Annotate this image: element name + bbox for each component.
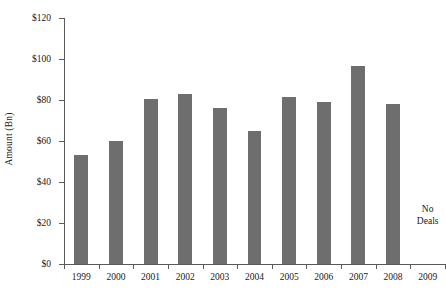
bar (351, 66, 365, 264)
bar (74, 155, 88, 264)
x-axis-tick (341, 264, 342, 269)
y-axis-line (64, 18, 65, 265)
y-axis-tick: $100 (59, 59, 64, 60)
x-axis-tick-label: 1999 (72, 272, 91, 282)
y-axis-tick-label: $40 (37, 177, 51, 187)
y-axis-tick-label: $100 (32, 54, 51, 64)
x-axis-tick (133, 264, 134, 269)
y-axis-tick-label: $60 (37, 136, 51, 146)
y-axis-title: Amount (Bn) (0, 0, 18, 293)
bar (144, 99, 158, 264)
x-axis-tick (376, 264, 377, 269)
x-axis-tick (272, 264, 273, 269)
x-axis-tick (306, 264, 307, 269)
y-axis-title-label: Amount (Bn) (4, 84, 14, 194)
x-axis-tick-label: 2001 (141, 272, 160, 282)
x-axis-line (64, 264, 445, 265)
x-axis-tick-label: 2006 (314, 272, 333, 282)
y-axis-tick: $60 (59, 141, 64, 142)
no-deals-line-1: No (417, 203, 439, 215)
x-axis-tick-label: 2004 (245, 272, 264, 282)
y-axis-tick-label: $0 (42, 259, 52, 269)
bar (248, 131, 262, 264)
y-axis-tick: $80 (59, 100, 64, 101)
bar-chart: Amount (Bn) $0$20$40$60$80$100$120 19992… (0, 0, 446, 293)
plot-area: $0$20$40$60$80$100$120 19992000200120022… (64, 18, 445, 264)
x-axis-tick (203, 264, 204, 269)
x-axis-tick-label: 2002 (176, 272, 195, 282)
bar (213, 108, 227, 264)
x-axis-tick (64, 264, 65, 269)
x-axis-tick-label: 2005 (280, 272, 299, 282)
x-axis-tick (410, 264, 411, 269)
bar (109, 141, 123, 264)
x-axis-tick (237, 264, 238, 269)
x-axis-tick (99, 264, 100, 269)
no-deals-line-2: Deals (417, 215, 439, 227)
bar (282, 97, 296, 264)
y-axis-tick: $40 (59, 182, 64, 183)
y-axis-tick-label: $80 (37, 95, 51, 105)
y-axis-tick-label: $120 (32, 13, 51, 23)
bar (178, 94, 192, 264)
x-axis-tick-label: 2008 (384, 272, 403, 282)
x-axis-tick (168, 264, 169, 269)
x-axis-tick-label: 2000 (106, 272, 125, 282)
x-axis-tick-label: 2007 (349, 272, 368, 282)
y-axis-tick-label: $20 (37, 218, 51, 228)
x-axis-tick-label: 2009 (418, 272, 437, 282)
x-axis-tick-label: 2003 (210, 272, 229, 282)
bar (317, 102, 331, 264)
y-axis-tick: $20 (59, 223, 64, 224)
bar (386, 104, 400, 264)
no-deals-annotation: No Deals (417, 203, 439, 227)
y-axis-tick: $120 (59, 18, 64, 19)
